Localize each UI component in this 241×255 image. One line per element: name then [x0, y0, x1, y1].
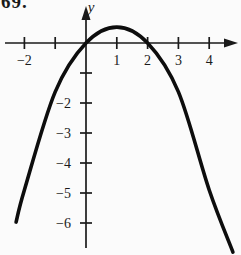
graph-figure: 69. −21234 −2−3−4−5−6 y: [0, 0, 241, 255]
x-axis-arrowhead: [224, 39, 238, 48]
x-tick-label: 1: [113, 53, 120, 68]
y-tick-label: −3: [56, 126, 71, 141]
y-axis-label: y: [86, 0, 95, 15]
axes: [5, 6, 238, 248]
y-tick-label: −4: [56, 156, 71, 171]
y-tick-label: −6: [56, 216, 71, 231]
x-tick-label: 3: [175, 53, 182, 68]
parabola-curve: [16, 27, 233, 252]
x-tick-label: −2: [17, 53, 32, 68]
x-axis-ticks: −21234: [17, 37, 213, 68]
y-tick-label: −2: [56, 96, 71, 111]
x-tick-label: 4: [206, 53, 213, 68]
y-tick-label: −5: [56, 186, 71, 201]
parabola-plot: −21234 −2−3−4−5−6 y: [0, 0, 241, 255]
x-tick-label: 2: [144, 53, 151, 68]
